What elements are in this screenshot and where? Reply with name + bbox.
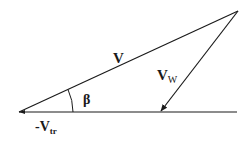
label-vw: VW xyxy=(157,67,178,85)
label-beta: β xyxy=(83,92,90,107)
vector-diagram: V VW β -Vtr xyxy=(0,0,249,141)
vector-vw xyxy=(161,11,238,111)
vector-v xyxy=(19,11,238,112)
label-neg-vtr: -Vtr xyxy=(35,119,57,136)
label-v: V xyxy=(113,50,124,66)
angle-arc-beta xyxy=(68,90,73,113)
